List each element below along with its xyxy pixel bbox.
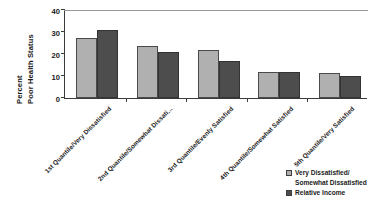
chart-legend: Very Dissatisfied/ Somewhat Dissatisfied… xyxy=(286,168,367,199)
x-axis-tick xyxy=(126,98,127,102)
legend-item: Very Dissatisfied/ Somewhat Dissatisfied xyxy=(286,168,367,187)
x-axis-category-label: 4th Quantile/Somewhat Satisfied xyxy=(148,105,294,213)
bar xyxy=(258,72,279,98)
x-axis-category-label: 3rd Quantile/Evenly Satisfied xyxy=(88,105,234,213)
x-axis-tick xyxy=(307,98,308,102)
y-axis-tick-label: 0 xyxy=(38,95,60,104)
bar-group xyxy=(258,10,300,98)
bar xyxy=(158,52,179,98)
plot-area xyxy=(64,11,367,99)
legend-swatch xyxy=(286,170,292,176)
y-axis-tick xyxy=(61,31,65,32)
y-axis-tick xyxy=(61,75,65,76)
x-axis-category-label: 1st Quantile/Very Dissatisfied xyxy=(0,105,113,213)
y-axis-tick-label: 30 xyxy=(38,29,60,38)
legend-label: Relative Income xyxy=(295,188,345,198)
x-axis-tick xyxy=(186,98,187,102)
y-axis-tick-label: 20 xyxy=(38,51,60,60)
bar-group xyxy=(76,10,118,98)
bar xyxy=(137,46,158,98)
y-axis-tick xyxy=(61,53,65,54)
bar xyxy=(340,76,361,98)
x-axis-category-label: 2nd Quantile/Somewhat Dissati... xyxy=(27,105,173,213)
bar-chart-figure: Percent Poor Health Status 010203040 1st… xyxy=(0,0,390,213)
chart-title-cropped xyxy=(64,0,314,8)
bar-group xyxy=(319,10,361,98)
bar xyxy=(279,72,300,98)
legend-item: Relative Income xyxy=(286,188,367,198)
bar xyxy=(198,50,219,98)
y-axis-tick-label: 40 xyxy=(38,7,60,16)
y-axis-title-line-2: Poor Health Status xyxy=(26,34,35,104)
bar xyxy=(319,73,340,98)
y-axis-tick-label: 10 xyxy=(38,73,60,82)
legend-swatch xyxy=(286,190,292,196)
y-axis-tick xyxy=(61,97,65,98)
y-axis-title-line-1: Percent xyxy=(15,75,24,104)
bar xyxy=(97,30,118,98)
y-axis-tick xyxy=(61,9,65,10)
bar xyxy=(76,38,97,99)
x-axis-tick xyxy=(247,98,248,102)
y-axis-title: Percent Poor Health Status xyxy=(0,0,36,110)
y-axis-tick-labels: 010203040 xyxy=(38,11,60,99)
bar xyxy=(219,61,240,98)
legend-label: Very Dissatisfied/ Somewhat Dissatisfied xyxy=(295,168,367,187)
bar-group xyxy=(137,10,179,98)
bar-group xyxy=(198,10,240,98)
